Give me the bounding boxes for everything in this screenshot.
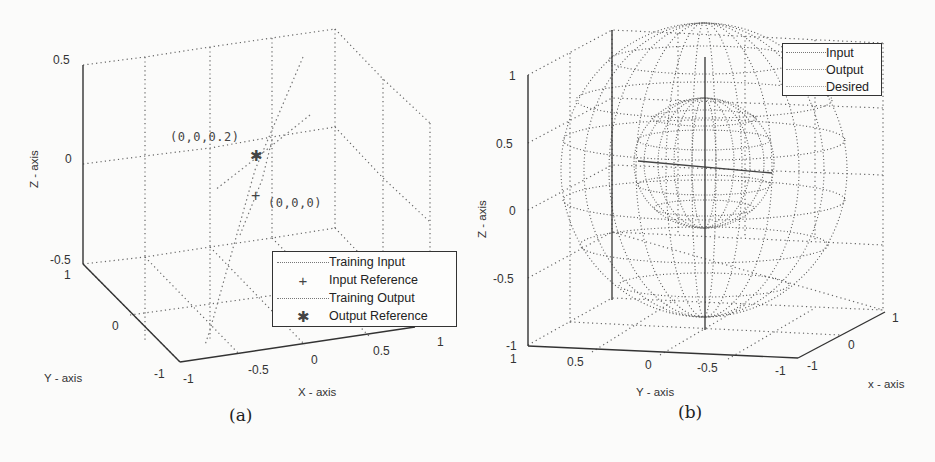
y-tick-neg1: -1 — [775, 364, 786, 378]
z-tick-0: 0 — [509, 204, 516, 218]
dotted-line-icon — [786, 69, 826, 70]
input-reference-marker: + — [251, 187, 260, 204]
z-tick-neg1: -1 — [506, 339, 517, 353]
x-tick-neg1: -1 — [183, 372, 194, 386]
y-tick-0.5: 0.5 — [567, 355, 584, 369]
y-axis-line — [83, 264, 180, 362]
y-tick-0: 0 — [645, 358, 652, 372]
x-tick-1: 1 — [892, 311, 899, 325]
output-reference-marker: ✱ — [250, 147, 263, 164]
x-tick-0: 0 — [311, 353, 318, 367]
panel-a-trajectory-plot: ✱ + (0,0,0.2) (0,0,0) 0.5 0 -0.5 1 0 -1 … — [0, 0, 470, 462]
dotted-line-icon — [277, 262, 329, 263]
y-tick-neg1: -1 — [154, 367, 165, 381]
legend-b: Input Output Desired — [782, 43, 882, 96]
caption-a: (a) — [229, 405, 252, 425]
z-axis-label: Z - axis — [476, 200, 488, 238]
x-tick-0: 0 — [848, 338, 855, 352]
y-axis-label: Y - axis — [636, 386, 674, 398]
dotted-line-icon — [786, 52, 826, 53]
x-tick-neg0.5: -0.5 — [248, 363, 269, 377]
x-axis-line — [798, 312, 885, 358]
z-tick-0: 0 — [65, 152, 72, 166]
z-tick-neg0.5: -0.5 — [50, 253, 71, 267]
x-tick-neg1: -1 — [807, 359, 818, 373]
legend-item-input: Input — [786, 44, 878, 61]
caption-b: (b) — [678, 402, 702, 422]
dotted-line-icon — [277, 298, 329, 299]
y-tick-neg0.5: -0.5 — [697, 361, 718, 375]
x-axis-label: x - axis — [868, 378, 905, 390]
panel-b-sphere-plot: 1 0.5 0 -0.5 -1 1 0.5 0 -0.5 -1 -1 0 1 Z… — [470, 0, 935, 462]
x-tick-0.5: 0.5 — [373, 344, 390, 358]
plot-a-canvas: ✱ + (0,0,0.2) (0,0,0) 0.5 0 -0.5 1 0 -1 … — [0, 0, 470, 462]
output-desired-sphere — [634, 98, 774, 228]
y-tick-1: 1 — [510, 352, 517, 366]
legend-item-desired: Desired — [786, 78, 878, 95]
legend-item-training-output: Training Output — [277, 289, 452, 307]
legend-item-output: Output — [786, 61, 878, 78]
legend-item-output-reference: ✱ Output Reference — [277, 307, 452, 325]
z-tick-1: 1 — [509, 69, 516, 83]
annotation-input-ref: (0,0,0) — [268, 196, 322, 210]
y-tick-0: 0 — [112, 319, 119, 333]
asterisk-marker-icon: ✱ — [297, 309, 310, 324]
legend-item-input-reference: + Input Reference — [277, 271, 452, 289]
y-axis-label: Y - axis — [44, 372, 82, 384]
dotted-line-icon — [786, 86, 826, 87]
plus-marker-icon: + — [299, 273, 308, 288]
y-tick-1: 1 — [64, 268, 71, 282]
z-tick-0.5: 0.5 — [53, 53, 70, 67]
z-tick-neg0.5: -0.5 — [493, 272, 514, 286]
z-tick-0.5: 0.5 — [496, 137, 513, 151]
x-tick-1: 1 — [437, 335, 444, 349]
legend-item-training-input: Training Input — [277, 253, 452, 271]
annotation-output-ref: (0,0,0.2) — [170, 130, 240, 144]
x-axis-label: X - axis — [298, 386, 337, 398]
axes — [528, 75, 885, 358]
z-axis-label: Z - axis — [28, 150, 40, 188]
legend-a: Training Input + Input Reference Trainin… — [272, 251, 457, 327]
